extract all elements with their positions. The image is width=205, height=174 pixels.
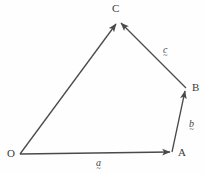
vector-label-b: b ~ [189,119,194,134]
vector-label-a-tilde: ~ [96,165,101,173]
vector-a-line [20,152,170,154]
vector-resultant-line [20,24,116,154]
point-label-O: O [7,148,15,159]
vector-label-b-tilde: ~ [189,126,194,134]
point-label-A: A [178,147,186,158]
vector-b-line [172,91,185,152]
point-label-B: B [192,82,199,93]
vector-label-c: c ~ [163,45,167,60]
point-label-C: C [112,3,119,14]
vector-label-a: a ~ [96,158,101,173]
vector-diagram: O A B C a ~ b ~ c ~ [0,0,205,174]
vector-c-line [121,23,186,88]
diagram-canvas [0,0,205,174]
vector-label-c-tilde: ~ [163,52,167,60]
